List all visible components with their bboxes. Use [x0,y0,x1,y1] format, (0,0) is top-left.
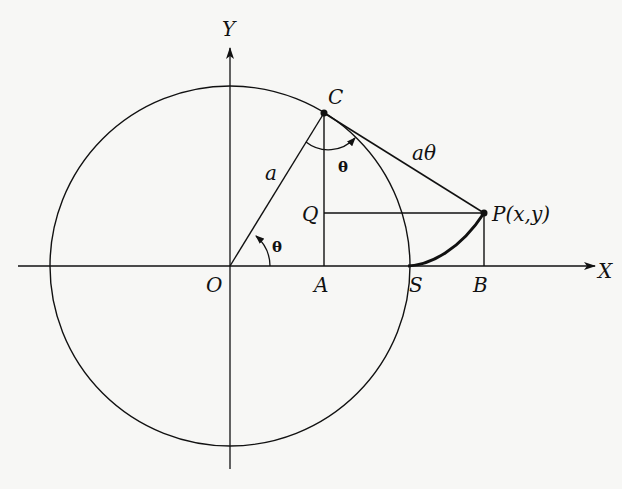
point-s-label: S [409,273,423,297]
point-p-label: P(x,y) [491,202,550,226]
point-c-label: C [328,85,343,109]
angle-arc-c [306,138,355,150]
point-b-label: B [472,273,488,297]
point-a-label: A [312,273,328,297]
x-axis-label: X [596,259,613,283]
radius-label: a [265,161,277,185]
angle-c-label: θ [338,158,348,176]
point-p-dot [481,210,488,217]
involute-curve [408,213,484,266]
arc-length-label: aθ [412,141,436,165]
point-q-label: Q [302,202,318,226]
y-axis-label: Y [222,17,237,41]
point-c-dot [321,110,328,117]
involute-diagram: Y X O C A Q S B P(x,y) a aθ θ θ [0,0,622,489]
angle-o-label: θ [272,238,282,256]
origin-label: O [206,273,222,297]
angle-arc-o [256,236,270,266]
